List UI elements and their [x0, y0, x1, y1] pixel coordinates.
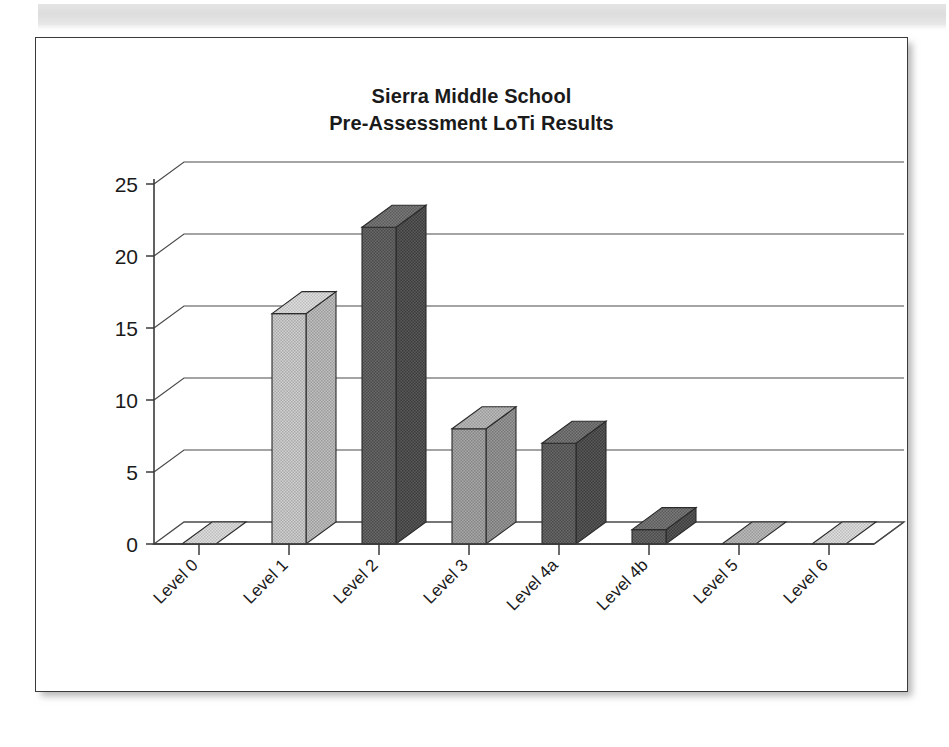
y-axis-tick-labels: 0510152025: [115, 173, 138, 556]
y-tick-label-15: 15: [115, 317, 138, 340]
bar-front-face: [362, 227, 396, 544]
chart-frame: Sierra Middle School Pre-Assessment LoTi…: [35, 37, 908, 692]
zero-marker: [182, 522, 246, 544]
bar-front-face: [452, 429, 486, 544]
bar-side-face: [306, 292, 336, 544]
gridline-15: [154, 306, 904, 328]
x-category-label-level-4a: Level 4a: [503, 555, 562, 614]
gridline-25: [154, 162, 904, 184]
zero-marker: [812, 522, 876, 544]
y-tick-label-10: 10: [115, 389, 138, 412]
bar-level-6: [812, 522, 876, 544]
gridline-20: [154, 234, 904, 256]
bar-level-4b: [632, 508, 696, 544]
bar-level-4a: [542, 421, 606, 544]
gridline-10: [154, 378, 904, 400]
gridline-5: [154, 450, 904, 472]
bar-level-3: [452, 407, 516, 544]
x-category-label-level-5: Level 5: [690, 555, 742, 607]
bar-level-0: [182, 522, 246, 544]
x-category-label-level-4b: Level 4b: [593, 555, 652, 614]
gridlines-layer: [154, 162, 904, 472]
floor-plane: [154, 522, 904, 544]
bar-level-2: [362, 205, 426, 544]
y-tick-label-25: 25: [115, 173, 138, 196]
axis-layer: [146, 179, 904, 555]
bar-chart-plot: 0510152025 Level 0Level 1Level 2Level 3L…: [36, 38, 909, 693]
x-category-label-level-1: Level 1: [240, 555, 292, 607]
x-category-label-level-3: Level 3: [420, 555, 472, 607]
bar-front-face: [542, 443, 576, 544]
x-category-label-level-0: Level 0: [150, 555, 202, 607]
scan-artifact-band: [38, 4, 946, 26]
x-category-label-level-2: Level 2: [330, 555, 382, 607]
y-tick-label-0: 0: [126, 533, 138, 556]
bars-layer: [182, 205, 876, 544]
bar-side-face: [396, 205, 426, 544]
x-axis-category-labels: Level 0Level 1Level 2Level 3Level 4aLeve…: [150, 555, 832, 614]
y-tick-label-20: 20: [115, 245, 138, 268]
bar-side-face: [486, 407, 516, 544]
y-tick-label-5: 5: [126, 461, 138, 484]
bar-front-face: [272, 314, 306, 544]
bar-level-1: [272, 292, 336, 544]
x-category-label-level-6: Level 6: [780, 555, 832, 607]
floor-right-edge: [874, 522, 904, 544]
bar-level-5: [722, 522, 786, 544]
zero-marker: [722, 522, 786, 544]
chart-floor: [154, 522, 904, 544]
bar-front-face: [632, 530, 666, 544]
